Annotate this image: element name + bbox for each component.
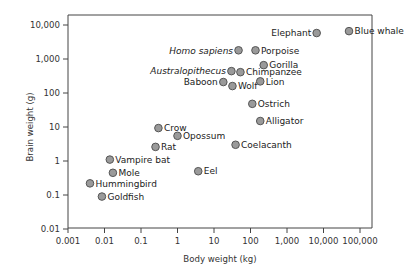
point-marker (229, 82, 237, 90)
data-point: Elephant (271, 28, 320, 38)
point-label: Eel (204, 166, 218, 176)
point-label: Australopithecus (149, 66, 226, 76)
data-points: Blue whaleElephantHomo sapiensPorpoiseGo… (86, 26, 404, 201)
x-tick-label: 10 (209, 236, 220, 246)
data-point: Eel (194, 166, 217, 176)
data-point: Wolf (229, 81, 259, 91)
point-marker (152, 143, 160, 151)
y-tick-label: 10,000 (30, 20, 60, 30)
x-tick-label: 1,000 (275, 236, 300, 246)
point-marker (248, 100, 256, 108)
point-marker (232, 141, 240, 149)
y-tick-label: 10 (49, 122, 60, 132)
point-marker (256, 78, 264, 86)
point-marker (106, 156, 114, 164)
data-point: Blue whale (345, 26, 404, 36)
data-point: Porpoise (252, 46, 300, 56)
point-marker (109, 169, 117, 177)
point-marker (220, 78, 228, 86)
data-point: Baboon (184, 77, 227, 87)
x-tick-label: 0.001 (56, 236, 81, 246)
point-label: Goldfish (107, 192, 144, 202)
point-label: Porpoise (261, 46, 300, 56)
point-marker (256, 117, 264, 125)
point-label: Baboon (184, 77, 218, 87)
point-label: Alligator (266, 116, 304, 126)
point-label: Wolf (238, 81, 258, 91)
point-label: Vampire bat (115, 155, 170, 165)
point-marker (98, 193, 106, 201)
x-tick-label: 100,000 (342, 236, 378, 246)
y-tick-label: 0.01 (41, 224, 60, 234)
y-axis: 0.010.11101001,00010,000 (30, 20, 68, 234)
point-marker (86, 180, 94, 188)
point-marker (155, 124, 163, 132)
point-label: Homo sapiens (169, 46, 233, 56)
x-tick-label: 0.01 (95, 236, 114, 246)
point-label: Opossum (183, 131, 225, 141)
y-tick-label: 1,000 (35, 54, 60, 64)
point-label: Lion (266, 77, 285, 87)
y-axis-title: Brain weight (g) (25, 92, 35, 161)
x-tick-label: 0.1 (134, 236, 148, 246)
point-label: Coelacanth (241, 140, 292, 150)
data-point: Goldfish (98, 192, 144, 202)
point-label: Mole (118, 168, 140, 178)
data-point: Mole (109, 168, 140, 178)
data-point: Homo sapiens (169, 46, 242, 56)
point-marker (345, 27, 353, 35)
point-marker (252, 47, 260, 55)
data-point: Ostrich (248, 99, 289, 109)
point-marker (313, 29, 321, 37)
x-tick-label: 1 (175, 236, 180, 246)
x-axis: 0.0010.010.11101001,00010,000100,000 (56, 228, 378, 246)
point-label: Blue whale (355, 26, 405, 36)
point-label: Elephant (271, 28, 311, 38)
point-label: Ostrich (258, 99, 290, 109)
x-tick-label: 10,000 (308, 236, 338, 246)
data-point: Crow (155, 123, 187, 133)
point-marker (194, 167, 202, 175)
data-point: Alligator (256, 116, 303, 126)
scatter-chart: 0.0010.010.11101001,00010,000100,000 0.0… (0, 0, 411, 272)
point-marker (228, 67, 236, 75)
data-point: Rat (152, 142, 177, 152)
data-point: Lion (256, 77, 284, 87)
data-point: Coelacanth (232, 140, 292, 150)
y-tick-label: 100 (44, 88, 60, 98)
y-tick-label: 1 (55, 156, 60, 166)
y-tick-label: 0.1 (46, 190, 60, 200)
point-marker (237, 68, 245, 76)
x-tick-label: 100 (242, 236, 258, 246)
data-point: Vampire bat (106, 155, 170, 165)
data-point: Australopithecus (149, 66, 235, 76)
data-point: Hummingbird (86, 179, 157, 189)
x-axis-title: Body weight (kg) (183, 254, 256, 264)
point-label: Hummingbird (95, 179, 156, 189)
point-marker (235, 47, 243, 55)
point-label: Rat (161, 142, 177, 152)
point-marker (174, 132, 182, 140)
